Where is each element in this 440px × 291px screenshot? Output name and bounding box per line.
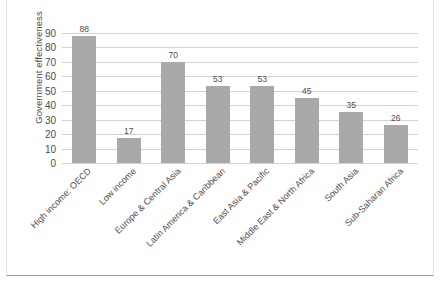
y-tick-label: 60 xyxy=(45,71,56,82)
bar xyxy=(295,98,319,163)
gridline: 80 xyxy=(62,47,418,48)
x-tick-label: High income: OECD xyxy=(29,166,93,230)
bar-value-label: 70 xyxy=(169,50,178,60)
bar xyxy=(161,62,185,163)
y-tick-label: 90 xyxy=(45,28,56,39)
bar xyxy=(339,112,363,163)
y-tick-label: 80 xyxy=(45,42,56,53)
y-tick-label: 50 xyxy=(45,85,56,96)
y-tick-label: 70 xyxy=(45,56,56,67)
plot-area: 9080706050403020100 8817705353453526 xyxy=(62,33,418,163)
bar-value-label: 35 xyxy=(347,100,356,110)
y-tick-label: 40 xyxy=(45,100,56,111)
bar xyxy=(72,36,96,163)
gridline: 60 xyxy=(62,76,418,77)
bar-value-label: 53 xyxy=(213,74,222,84)
gridline: 70 xyxy=(62,62,418,63)
y-tick-label: 30 xyxy=(45,114,56,125)
bar-value-label: 17 xyxy=(124,126,133,136)
bar xyxy=(384,125,408,163)
y-tick-label: 0 xyxy=(50,158,56,169)
bar-value-label: 45 xyxy=(302,86,311,96)
gridline: 0 xyxy=(62,163,418,164)
gridline: 40 xyxy=(62,105,418,106)
x-axis-labels: High income: OECDLow incomeEurope & Cent… xyxy=(62,166,418,276)
bar-value-label: 26 xyxy=(391,113,400,123)
gridline: 50 xyxy=(62,91,418,92)
x-tick-label: South Asia xyxy=(323,166,360,203)
x-tick-label: Middle East & North Africa xyxy=(234,166,315,247)
bar xyxy=(117,138,141,163)
bar-value-label: 88 xyxy=(80,24,89,34)
bar xyxy=(250,86,274,163)
x-tick-label: Low income xyxy=(97,166,138,207)
y-tick-label: 20 xyxy=(45,129,56,140)
y-tick-label: 10 xyxy=(45,143,56,154)
gridline: 30 xyxy=(62,120,418,121)
gridline: 20 xyxy=(62,134,418,135)
bar-value-label: 53 xyxy=(258,74,267,84)
bar xyxy=(206,86,230,163)
chart-figure: Government effectiveness 908070605040302… xyxy=(0,0,440,291)
y-axis-title: Government effectiveness xyxy=(33,0,44,148)
x-tick-label: Latin America & Caribbean xyxy=(144,166,227,249)
gridline: 90 xyxy=(62,33,418,34)
gridline: 10 xyxy=(62,149,418,150)
